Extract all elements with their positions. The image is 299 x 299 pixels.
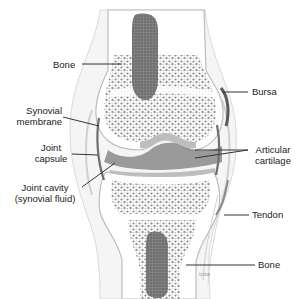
label-synovial-membrane-line1: Synovial — [4, 105, 62, 116]
label-synovial-membrane-line2: membrane — [4, 116, 62, 127]
label-articular-cartilage-line2: cartilage — [250, 155, 296, 166]
label-joint-capsule-line2: capsule — [30, 153, 72, 164]
label-joint-capsule: Joint capsule — [30, 142, 72, 164]
joint-diagram: tcsa Bone Synovial membrane Joint capsul… — [0, 0, 299, 299]
label-joint-cavity: Joint cavity (synovial fluid) — [8, 182, 82, 204]
label-synovial-membrane: Synovial membrane — [4, 105, 62, 127]
label-joint-capsule-line1: Joint — [30, 142, 72, 153]
label-articular-cartilage: Articular cartilage — [250, 144, 296, 166]
label-articular-cartilage-line1: Articular — [250, 144, 296, 155]
label-joint-cavity-line1: Joint cavity — [8, 182, 82, 193]
label-bone-bottom: Bone — [258, 259, 280, 270]
artist-signature: tcsa — [199, 271, 211, 277]
label-joint-cavity-line2: (synovial fluid) — [8, 193, 82, 204]
label-bone-top: Bone — [53, 59, 75, 70]
label-bursa: Bursa — [252, 86, 277, 97]
upper-bone — [96, 10, 223, 150]
label-tendon: Tendon — [252, 209, 283, 220]
